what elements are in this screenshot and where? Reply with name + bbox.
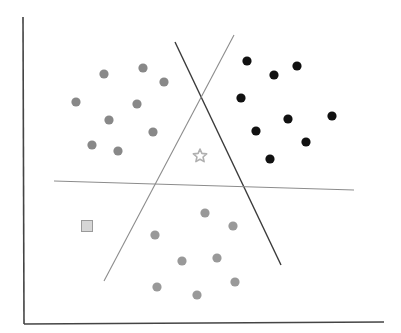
data-point — [71, 97, 80, 106]
data-point — [99, 69, 108, 78]
cluster-right — [236, 56, 336, 163]
data-point — [104, 115, 113, 124]
boundary-light-diagonal — [104, 35, 234, 281]
data-point — [87, 140, 96, 149]
star-icon — [193, 149, 206, 162]
data-point — [192, 290, 201, 299]
decision-boundary-diagram — [0, 0, 401, 333]
boundary-light-horizontal — [54, 181, 354, 190]
data-point — [242, 56, 251, 65]
data-point — [283, 114, 292, 123]
data-point — [113, 146, 122, 155]
data-point — [236, 93, 245, 102]
data-point — [148, 127, 157, 136]
data-point — [301, 137, 310, 146]
data-point — [265, 154, 274, 163]
data-point — [177, 256, 186, 265]
data-point — [150, 230, 159, 239]
plot-area — [0, 0, 401, 333]
x-axis — [24, 322, 384, 324]
data-point — [251, 126, 260, 135]
y-axis — [23, 17, 24, 324]
cluster-left — [71, 63, 168, 155]
special-points — [82, 149, 207, 232]
axes — [23, 17, 384, 324]
data-point — [200, 208, 209, 217]
boundary-dark-diagonal — [175, 42, 281, 265]
square-icon — [82, 221, 93, 232]
cluster-bottom — [150, 208, 239, 299]
data-point — [132, 99, 141, 108]
data-point — [230, 277, 239, 286]
data-point — [152, 282, 161, 291]
data-point — [269, 70, 278, 79]
data-point — [228, 221, 237, 230]
data-point — [159, 77, 168, 86]
data-point — [212, 253, 221, 262]
data-point — [292, 61, 301, 70]
data-point — [138, 63, 147, 72]
data-point — [327, 111, 336, 120]
